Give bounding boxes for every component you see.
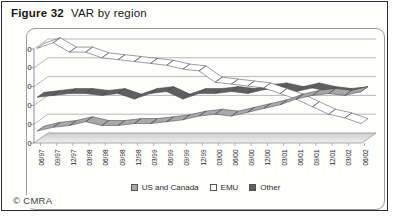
chart-area: 0102030405006/9709/9712/9703/9806/9809/9… [26, 28, 385, 210]
legend-item-emu: EMU [210, 183, 239, 192]
svg-text:03/99: 03/99 [151, 149, 158, 165]
svg-text:03/98: 03/98 [86, 149, 93, 165]
svg-text:03/00: 03/00 [216, 149, 223, 165]
svg-text:40: 40 [27, 63, 32, 72]
svg-text:09/01: 09/01 [313, 149, 320, 165]
figure-title-row: Figure 32VAR by region [11, 7, 147, 19]
svg-text:12/00: 12/00 [264, 149, 271, 165]
legend-label-other: Other [260, 183, 280, 192]
svg-text:06/00: 06/00 [232, 149, 239, 165]
figure-label: Figure 32 [11, 7, 64, 19]
figure-box: Figure 32VAR by region 0102030405006/970… [1, 1, 388, 211]
chart-legend: US and Canada EMU Other [27, 183, 384, 192]
svg-text:03/01: 03/01 [281, 149, 288, 165]
svg-text:20: 20 [27, 101, 32, 110]
svg-text:10: 10 [27, 120, 32, 129]
svg-text:09/99: 09/99 [183, 149, 190, 165]
svg-text:06/99: 06/99 [167, 149, 174, 165]
emu-swatch-icon [210, 184, 217, 191]
svg-text:09/98: 09/98 [119, 149, 126, 165]
svg-text:06/98: 06/98 [102, 149, 109, 165]
legend-item-other: Other [249, 183, 280, 192]
legend-label-us-canada: US and Canada [142, 183, 199, 192]
svg-text:12/99: 12/99 [200, 149, 207, 165]
svg-text:06/02: 06/02 [362, 149, 369, 165]
svg-text:09/97: 09/97 [54, 149, 61, 165]
svg-text:30: 30 [27, 82, 32, 91]
legend-item-us-canada: US and Canada [131, 183, 199, 192]
svg-text:06/01: 06/01 [297, 149, 304, 165]
svg-text:0: 0 [28, 139, 32, 148]
chart-plot: 0102030405006/9709/9712/9703/9806/9809/9… [27, 38, 376, 166]
copyright-credit: © CMRA [11, 195, 57, 208]
svg-text:12/97: 12/97 [70, 149, 77, 165]
svg-text:06/97: 06/97 [38, 149, 45, 165]
svg-text:12/98: 12/98 [135, 149, 142, 165]
us-canada-swatch-icon [131, 184, 138, 191]
other-swatch-icon [249, 184, 256, 191]
svg-text:03/02: 03/02 [345, 149, 352, 165]
figure-title: VAR by region [71, 7, 147, 19]
svg-text:09/00: 09/00 [248, 149, 255, 165]
svg-text:12/01: 12/01 [329, 149, 336, 165]
svg-text:50: 50 [27, 45, 32, 54]
legend-label-emu: EMU [221, 183, 239, 192]
var-chart-svg: 0102030405006/9709/9712/9703/9806/9809/9… [27, 30, 384, 180]
